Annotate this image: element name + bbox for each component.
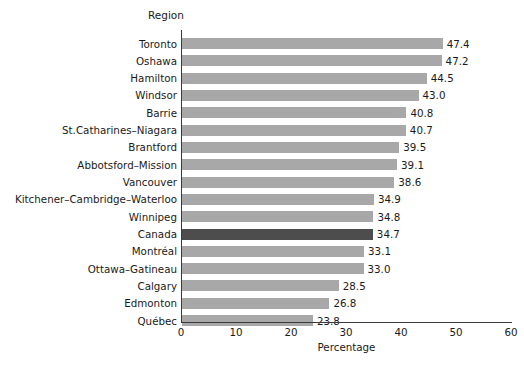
x-axis-title: Percentage: [181, 341, 512, 353]
bar-value-label: 34.7: [377, 229, 400, 240]
category-label: Calgary: [137, 280, 177, 291]
bar: [182, 107, 406, 118]
bar-value-label: 39.5: [403, 142, 426, 153]
bar-row: Montréal33.1: [0, 246, 524, 257]
category-label: Vancouver: [123, 177, 177, 188]
bar: [182, 142, 399, 153]
x-tick-label: 60: [504, 326, 517, 338]
bar-value-label: 40.8: [410, 107, 433, 118]
bar: [182, 315, 313, 326]
bar-value-label: 33.1: [368, 246, 391, 257]
x-tick-label: 0: [178, 326, 185, 338]
bar-row: Toronto47.4: [0, 38, 524, 49]
x-tick-label: 50: [449, 326, 462, 338]
bar-value-label: 38.6: [398, 177, 421, 188]
bar-highlighted: [182, 229, 373, 240]
bar-row: Oshawa47.2: [0, 55, 524, 66]
bar-row: Ottawa–Gatineau33.0: [0, 263, 524, 274]
category-label: Québec: [138, 315, 178, 326]
x-axis-line: [181, 322, 512, 323]
bar-value-label: 23.8: [317, 315, 340, 326]
category-label: Winnipeg: [129, 211, 177, 222]
bar-row: Kitchener–Cambridge–Waterloo34.9: [0, 194, 524, 205]
category-label: Oshawa: [136, 55, 177, 66]
category-label: Canada: [138, 229, 177, 240]
bar: [182, 280, 339, 291]
category-label: Brantford: [128, 142, 177, 153]
bar: [182, 90, 419, 101]
x-tick-label: 20: [284, 326, 297, 338]
category-label: Kitchener–Cambridge–Waterloo: [15, 194, 177, 205]
bar-row: Windsor43.0: [0, 90, 524, 101]
bar-row: Brantford39.5: [0, 142, 524, 153]
bar-value-label: 33.0: [368, 263, 391, 274]
bar-value-label: 43.0: [423, 90, 446, 101]
bar-value-label: 39.1: [401, 159, 424, 170]
bar-row: St.Catharines–Niagara40.7: [0, 125, 524, 136]
category-label: St.Catharines–Niagara: [62, 125, 177, 136]
category-label: Abbotsford–Mission: [77, 159, 177, 170]
bar-row: Winnipeg34.8: [0, 211, 524, 222]
bar-value-label: 47.2: [446, 55, 469, 66]
bar-row: Hamilton44.5: [0, 73, 524, 84]
bar-row: Calgary28.5: [0, 280, 524, 291]
bar-row: Canada34.7: [0, 229, 524, 240]
bar: [182, 38, 443, 49]
bar: [182, 159, 397, 170]
y-axis-header: Region: [148, 9, 184, 21]
bar-row: Barrie40.8: [0, 107, 524, 118]
category-label: Barrie: [146, 107, 177, 118]
bar: [182, 211, 373, 222]
bar: [182, 263, 364, 274]
bar-value-label: 26.8: [333, 298, 356, 309]
category-label: Toronto: [139, 38, 177, 49]
x-tick-label: 30: [339, 326, 352, 338]
bar: [182, 177, 394, 188]
footer-text-fragment: [0, 366, 524, 374]
bar-value-label: 28.5: [343, 280, 366, 291]
bar-row: Québec23.8: [0, 315, 524, 326]
bar: [182, 125, 406, 136]
bar-row: Vancouver38.6: [0, 177, 524, 188]
bar: [182, 298, 329, 309]
bar-value-label: 40.7: [410, 125, 433, 136]
x-tick-label: 40: [394, 326, 407, 338]
category-label: Windsor: [135, 90, 177, 101]
category-label: Montréal: [132, 246, 177, 257]
bar-value-label: 47.4: [447, 38, 470, 49]
category-label: Edmonton: [124, 298, 177, 309]
bar: [182, 55, 442, 66]
bar-chart: Region Toronto47.4Oshawa47.2Hamilton44.5…: [0, 0, 524, 374]
bar-value-label: 44.5: [431, 73, 454, 84]
bar-row: Edmonton26.8: [0, 298, 524, 309]
category-label: Ottawa–Gatineau: [88, 263, 177, 274]
bar: [182, 246, 364, 257]
bar: [182, 194, 374, 205]
x-tick-label: 10: [229, 326, 242, 338]
bar-value-label: 34.9: [378, 194, 401, 205]
bar-value-label: 34.8: [377, 211, 400, 222]
category-label: Hamilton: [130, 73, 177, 84]
bar: [182, 73, 427, 84]
bar-row: Abbotsford–Mission39.1: [0, 159, 524, 170]
